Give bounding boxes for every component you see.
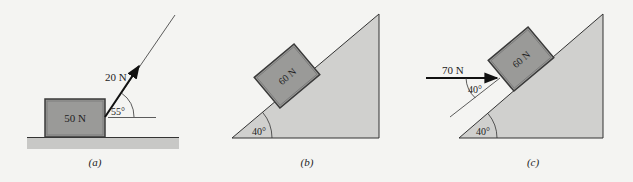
angle-label: 55°: [111, 106, 125, 117]
block-50n: 50 N: [45, 99, 105, 137]
incline-angle-label: 40°: [252, 126, 266, 137]
force-angle-label: 40°: [468, 84, 482, 95]
caption: (b): [301, 156, 314, 169]
caption: (a): [89, 156, 102, 169]
panel-a: 50 N 20 N 55° (a): [27, 15, 179, 169]
panel-b: 60 N 40° (b): [232, 14, 379, 169]
ground: [27, 137, 179, 149]
caption: (c): [527, 156, 540, 169]
block-label: 50 N: [64, 112, 86, 124]
panel-c: 60 N 70 N 40° 40° (c): [426, 14, 603, 169]
force-label: 20 N: [105, 71, 127, 83]
figure: 50 N 20 N 55° (a) 60 N 40° (b) 60 N 70 N: [0, 0, 633, 182]
incline-angle-label: 40°: [476, 126, 490, 137]
force-label: 70 N: [442, 64, 464, 76]
